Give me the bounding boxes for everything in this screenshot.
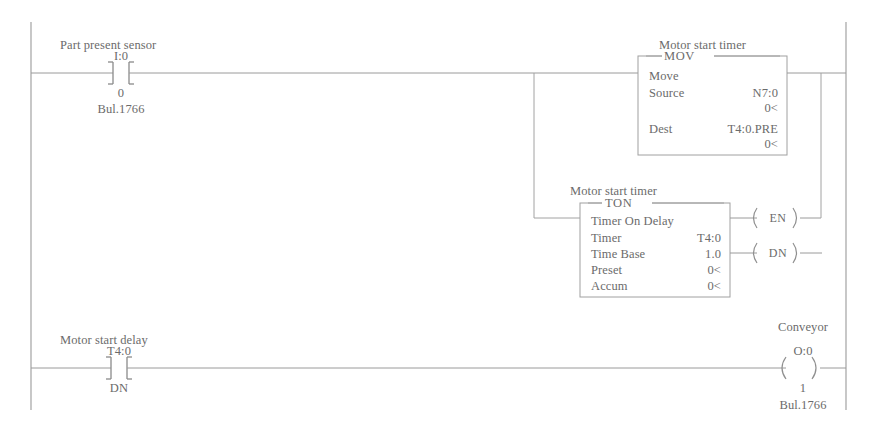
ton-accum-label: Accum (591, 279, 628, 294)
ton-timer-value: T4:0 (645, 231, 721, 246)
ton-timebase-label: Time Base (591, 247, 645, 262)
mov-dest-value: T4:0.PRE (700, 122, 778, 137)
conveyor-coil-comment: Conveyor (778, 320, 828, 335)
rung1-contact-module: Bul.1766 (98, 102, 145, 117)
mov-source-label: Source (649, 86, 684, 101)
mov-dest-current: 0< (700, 137, 778, 152)
ladder-diagram-canvas: Part present sensor I:0 0 Bul.1766 Motor… (0, 0, 876, 434)
ton-block-description: Timer On Delay (591, 214, 674, 229)
ton-timer-label: Timer (591, 231, 622, 246)
mov-source-current: 0< (700, 101, 778, 116)
ton-accum-value: 0< (645, 279, 721, 294)
rung1-comment: Part present sensor (60, 38, 156, 53)
ton-timebase-value: 1.0 (645, 247, 721, 262)
conveyor-coil-arc-right (812, 357, 816, 379)
conveyor-coil-bit: 1 (800, 381, 806, 396)
ton-preset-label: Preset (591, 263, 622, 278)
rung3-contact-bit: DN (110, 381, 128, 396)
mov-dest-label: Dest (649, 122, 672, 137)
mov-block-description: Move (649, 69, 679, 84)
ton-output-dn-label: DN (769, 246, 787, 261)
en-coil-arc-right (793, 208, 797, 228)
ladder-wiring-svg (0, 0, 876, 434)
rung1-contact-address: I:0 (114, 49, 128, 64)
mov-block-mnemonic: MOV (664, 49, 695, 64)
rung3-contact-address: T4:0 (107, 344, 131, 359)
dn-coil-arc-right (793, 243, 797, 263)
rung3-comment: Motor start delay (60, 333, 148, 348)
conveyor-coil-module: Bul.1766 (780, 398, 827, 413)
ton-preset-value: 0< (645, 263, 721, 278)
mov-source-value: N7:0 (700, 86, 778, 101)
conveyor-coil-address: O:0 (793, 344, 812, 359)
rung1-contact-bit: 0 (118, 86, 124, 101)
ton-output-en-label: EN (770, 211, 787, 226)
ton-block-mnemonic: TON (605, 196, 632, 211)
